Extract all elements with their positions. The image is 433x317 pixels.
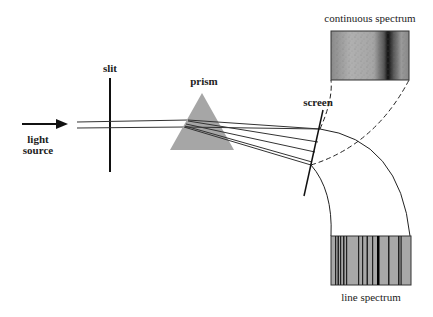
continuous-projection-lines (311, 80, 409, 165)
incoming-beam (77, 120, 188, 128)
spectrum-diagram: light source slit prism screen continuou… (0, 0, 433, 317)
line-projection-lines (311, 129, 410, 236)
light-source-arrow (22, 119, 68, 129)
screen (304, 110, 323, 196)
light-source-label-line2: source (23, 144, 53, 156)
prism (170, 93, 234, 150)
continuous-spectrum-label: continuous spectrum (324, 12, 416, 24)
line-spectrum-label: line spectrum (341, 291, 401, 303)
line-spectrum (331, 236, 411, 285)
continuous-spectrum (331, 31, 409, 80)
slit-label: slit (103, 62, 117, 74)
prism-label: prism (190, 75, 218, 87)
